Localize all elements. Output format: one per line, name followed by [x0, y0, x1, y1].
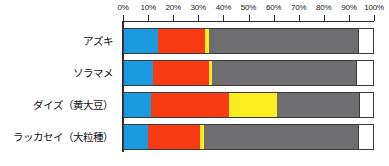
bar-segment-blue-segment — [124, 61, 153, 85]
bar-segment-red-segment — [148, 125, 200, 149]
bar-segment-blue-segment — [124, 93, 151, 117]
bar-segment-white-segment — [356, 61, 373, 85]
bar-segment-gray-segment — [209, 29, 358, 53]
bar-segment-red-segment — [158, 29, 205, 53]
category-label: アズキ — [2, 28, 117, 54]
bar-segment-gray-segment — [212, 61, 355, 85]
bar-rows: アズキソラマメダイズ（黄大豆）ラッカセイ（大粒種） — [0, 0, 389, 166]
bar-row: ラッカセイ（大粒種） — [0, 124, 389, 150]
bar-segment-blue-segment — [124, 125, 148, 149]
bar-segment-white-segment — [359, 93, 373, 117]
category-label: ラッカセイ（大粒種） — [2, 124, 117, 150]
bar-segment-white-segment — [358, 125, 373, 149]
stacked-bar — [123, 92, 374, 118]
stacked-bar-chart: 0%10%20%30%40%50%60%70%80%90%100% アズキソラマ… — [0, 0, 389, 166]
stacked-bar — [123, 28, 374, 54]
category-label: ダイズ（黄大豆） — [2, 92, 117, 118]
bar-row: ダイズ（黄大豆） — [0, 92, 389, 118]
stacked-bar — [123, 60, 374, 86]
bar-segment-gray-segment — [204, 125, 358, 149]
category-label: ソラマメ — [2, 60, 117, 86]
bar-row: アズキ — [0, 28, 389, 54]
stacked-bar — [123, 124, 374, 150]
bar-segment-white-segment — [358, 29, 373, 53]
bar-segment-red-segment — [151, 93, 228, 117]
bar-segment-blue-segment — [124, 29, 158, 53]
bar-segment-red-segment — [153, 61, 209, 85]
bar-segment-yellow-segment — [229, 93, 278, 117]
bar-row: ソラマメ — [0, 60, 389, 86]
bar-segment-gray-segment — [277, 93, 359, 117]
